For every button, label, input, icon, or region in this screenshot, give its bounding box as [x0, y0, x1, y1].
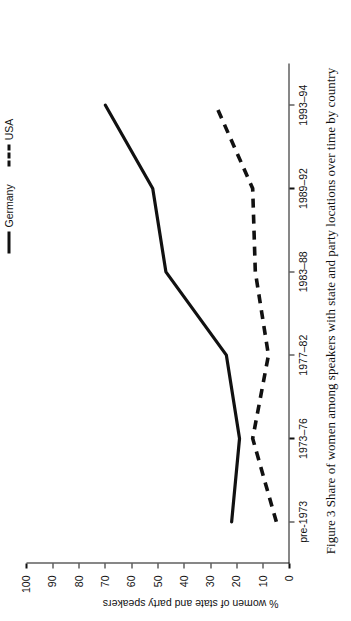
legend-swatch-solid-icon: [7, 231, 10, 253]
x-axis-tick-mark: [289, 271, 294, 272]
y-axis-tick-mark: [78, 563, 79, 568]
y-axis-tick-label: 90: [45, 575, 57, 605]
x-axis-tick-label: 1973–76: [296, 403, 308, 473]
rotated-figure-container: Germany USA 0102030405060708090100 pre-1…: [0, 0, 351, 621]
y-axis-tick-mark: [262, 563, 263, 568]
y-axis-tick-mark: [236, 563, 237, 568]
x-axis-tick-mark: [289, 354, 294, 355]
legend-label-germany: Germany: [2, 184, 14, 227]
legend-item-germany: Germany: [2, 184, 14, 253]
y-axis-tick-mark: [131, 563, 132, 568]
x-axis-tick-mark: [289, 104, 294, 105]
chart-legend: Germany USA: [2, 118, 14, 253]
series-line-germany: [105, 105, 239, 522]
x-axis-tick-mark: [289, 437, 294, 438]
x-axis-tick-label: 1977–82: [296, 320, 308, 390]
chart-lines: [26, 63, 289, 563]
series-line-usa: [215, 105, 275, 522]
y-axis-tick-mark: [288, 563, 289, 568]
y-axis-tick-mark: [25, 563, 26, 568]
legend-item-usa: USA: [2, 118, 14, 166]
y-axis-tick-mark: [183, 563, 184, 568]
y-axis-title: % women of state and party speakers: [102, 597, 278, 609]
y-axis-tick-mark: [210, 563, 211, 568]
figure: Germany USA 0102030405060708090100 pre-1…: [0, 0, 351, 621]
x-axis-tick-label: 1983–88: [296, 236, 308, 306]
legend-label-usa: USA: [2, 118, 14, 140]
y-axis-tick-label: 80: [72, 575, 84, 605]
y-axis-tick-mark: [52, 563, 53, 568]
x-axis-tick-mark: [289, 187, 294, 188]
x-axis-tick-label: 1993–94: [296, 70, 308, 140]
legend-swatch-dashed-icon: [7, 144, 10, 166]
y-axis-tick-mark: [157, 563, 158, 568]
y-axis-tick-label: 0: [282, 575, 294, 605]
x-axis-tick-mark: [289, 521, 294, 522]
figure-caption: Figure 3 Share of women among speakers w…: [322, 0, 338, 621]
x-axis-tick-label: 1989–92: [296, 153, 308, 223]
y-axis-tick-mark: [104, 563, 105, 568]
x-axis-tick-label: pre-1973: [296, 486, 308, 556]
y-axis-tick-label: 100: [19, 575, 31, 605]
